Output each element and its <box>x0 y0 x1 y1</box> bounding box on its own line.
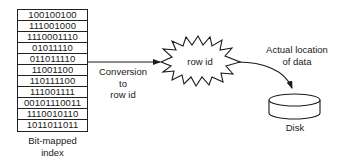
bitmap-row: 1011011011 <box>18 120 87 131</box>
location-line: Actual location <box>258 44 336 56</box>
location-line: of data <box>258 56 336 68</box>
row-id-label: row id <box>187 56 212 67</box>
bitmap-index-table: 100100100 111001000 1110001110 01011110 … <box>17 9 88 132</box>
caption-line: Bit-mapped <box>17 135 88 147</box>
disk-label: Disk <box>275 122 315 134</box>
bitmap-index-caption: Bit-mapped index <box>17 135 88 158</box>
conversion-line: to <box>92 78 154 90</box>
location-label: Actual location of data <box>258 44 336 67</box>
caption-line: index <box>17 147 88 159</box>
conversion-label: Conversion to row id <box>92 66 154 101</box>
disk-icon <box>269 94 320 119</box>
conversion-line: Conversion <box>92 66 154 78</box>
conversion-line: row id <box>92 89 154 101</box>
